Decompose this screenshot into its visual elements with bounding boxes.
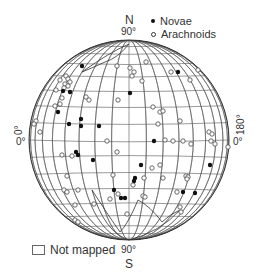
nova-marker [76, 153, 80, 157]
arachnoid-marker [115, 150, 119, 154]
arachnoid-marker [54, 88, 58, 92]
arachnoid-marker [60, 96, 64, 100]
arachnoid-marker [163, 138, 167, 142]
arachnoid-marker [70, 154, 74, 158]
nova-marker [119, 196, 123, 200]
arachnoid-marker [179, 210, 183, 214]
arachnoid-marker [156, 122, 160, 126]
south-label: S [125, 258, 133, 270]
nova-marker [67, 122, 71, 126]
legend-novae-label: Novae [160, 15, 192, 27]
legend-novae: Novae [151, 15, 192, 27]
legend-not-mapped-label: Not mapped [50, 243, 115, 257]
arachnoid-marker [161, 109, 165, 113]
nova-marker [79, 124, 83, 128]
arachnoid-marker [175, 190, 179, 194]
nova-marker [79, 117, 83, 121]
globe-map [0, 0, 259, 274]
nova-marker [208, 163, 212, 167]
arachnoid-marker [178, 119, 182, 123]
nova-marker [181, 190, 185, 194]
nova-marker [123, 196, 127, 200]
arachnoid-marker [158, 163, 162, 167]
arachnoid-marker [169, 70, 173, 74]
west-degree-label: 0° [16, 137, 26, 147]
arachnoid-marker [38, 130, 42, 134]
south-degree-label: 90° [121, 245, 136, 255]
arachnoid-marker [188, 78, 192, 82]
nova-marker [91, 158, 95, 162]
legend-arachnoids: Arachnoids [151, 28, 216, 40]
arachnoid-marker [185, 177, 189, 181]
arachnoid-marker [115, 64, 119, 68]
arachnoid-marker [108, 197, 112, 201]
arachnoid-marker [32, 122, 36, 126]
nova-marker [97, 124, 101, 128]
arachnoid-marker [87, 98, 91, 102]
arachnoid-marker [76, 188, 80, 192]
arachnoid-marker [111, 173, 115, 177]
arachnoid-marker [144, 60, 148, 64]
arachnoid-marker [92, 202, 96, 206]
east-degree-label: 0° [233, 137, 243, 147]
arachnoid-marker [131, 183, 135, 187]
nova-marker [139, 163, 143, 167]
arachnoid-marker [150, 166, 154, 170]
nova-marker [56, 110, 60, 114]
arachnoid-marker [196, 68, 200, 72]
arachnoid-marker [73, 203, 77, 207]
arachnoid-marker [151, 105, 155, 109]
nova-marker [61, 89, 65, 93]
arachnoid-marker [76, 220, 80, 224]
arachnoid-marker [140, 79, 144, 83]
arachnoid-marker [171, 139, 175, 143]
east-rotated-degree-label: 180° [236, 114, 246, 135]
nova-marker [152, 139, 156, 143]
arachnoid-marker [58, 78, 62, 82]
arachnoid-marker [142, 176, 146, 180]
arachnoid-marker [65, 174, 69, 178]
arachnoid-marker [161, 176, 165, 180]
arachnoid-marker [209, 139, 213, 143]
empty-box-icon [32, 245, 45, 255]
arachnoid-marker [213, 142, 217, 146]
arachnoid-marker [60, 153, 64, 157]
arachnoid-marker [128, 66, 132, 70]
arachnoid-marker [143, 195, 147, 199]
arachnoid-marker [65, 190, 69, 194]
arachnoid-marker [116, 192, 120, 196]
west-rotated-degree-label: 0° [14, 125, 24, 135]
nova-marker [128, 91, 132, 95]
nova-marker [80, 64, 84, 68]
arachnoid-marker [226, 145, 230, 149]
arachnoid-marker [58, 102, 62, 106]
arachnoid-marker [189, 142, 193, 146]
nova-marker [132, 179, 136, 183]
north-label: N [125, 14, 134, 26]
arachnoid-marker [53, 104, 57, 108]
arachnoid-marker [132, 70, 136, 74]
nova-marker [193, 191, 197, 195]
arachnoid-marker [181, 139, 185, 143]
arachnoid-marker [210, 132, 214, 136]
filled-dot-icon [151, 19, 155, 23]
arachnoid-marker [116, 98, 120, 102]
nova-marker [68, 90, 72, 94]
north-degree-label: 90° [121, 27, 136, 37]
nova-marker [176, 70, 180, 74]
nova-marker [112, 188, 116, 192]
arachnoid-marker [178, 205, 182, 209]
legend-not-mapped: Not mapped [32, 243, 115, 257]
arachnoid-marker [105, 139, 109, 143]
open-circle-icon [151, 32, 156, 37]
legend-arachnoids-label: Arachnoids [161, 28, 216, 40]
arachnoid-marker [125, 212, 129, 216]
